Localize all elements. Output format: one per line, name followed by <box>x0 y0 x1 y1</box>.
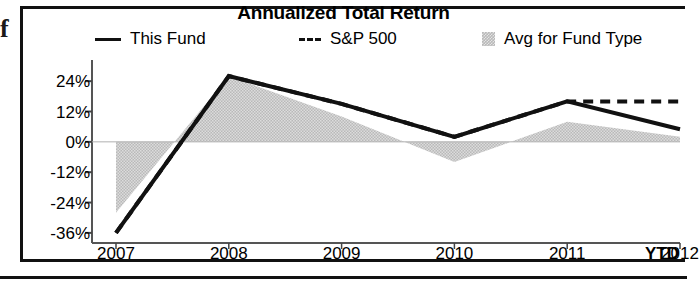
chart-plot-svg <box>20 6 687 262</box>
series-line-this-fund <box>116 76 680 233</box>
y-axis-tick-label: -36% <box>28 225 90 242</box>
x-axis-ytd-label: YTD <box>645 243 687 265</box>
y-axis-tick-label: 24% <box>28 73 90 90</box>
x-axis-tick-label: 2011 <box>549 243 586 265</box>
y-axis-tick-labels: 24%12%0%-12%-24%-36% <box>28 0 90 256</box>
x-axis-tick-label: 2009 <box>323 243 361 265</box>
y-axis-tick-label: 0% <box>28 134 90 151</box>
x-axis-tick-label: 2010 <box>435 243 473 265</box>
series-area-avg-for-fund-type <box>116 76 680 213</box>
plot-area <box>20 6 687 262</box>
series-line-sp500 <box>116 76 680 233</box>
y-axis-tick-label: -24% <box>28 195 90 212</box>
x-axis-tick-label: 2007 <box>97 243 135 265</box>
y-axis-tick-label: 12% <box>28 104 90 121</box>
x-axis-tick-labels: 200720082009201020112012 <box>0 243 687 269</box>
bottom-divider <box>0 276 687 279</box>
x-axis-tick-label: 2008 <box>210 243 248 265</box>
y-axis-tick-label: -12% <box>28 164 90 181</box>
